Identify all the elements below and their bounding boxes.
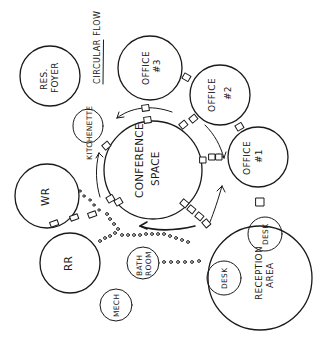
- arrow-right-upper: [205, 125, 224, 158]
- arrowhead-left-icon: [96, 153, 103, 158]
- circular-flow-label: CIRCULAR FLOW: [93, 10, 102, 84]
- room-rr: RR: [40, 233, 100, 293]
- arrowhead-bottom-icon: [140, 222, 147, 229]
- room-office-1: OFFICE #1: [228, 127, 288, 187]
- flow-arrows: [96, 108, 226, 230]
- circular-flow-annotation: CIRCULAR FLOW: [93, 10, 104, 84]
- desk-b-label: DESK: [220, 267, 229, 289]
- room-res-foyer: RES. FOYER: [20, 46, 80, 106]
- bubble-diagram: CIRCULAR FLOW RES. FOYER OFFICE #3 OFFIC…: [0, 0, 320, 338]
- office-3-label-1: OFFICE: [141, 51, 151, 85]
- mech-label: MECH: [112, 294, 121, 317]
- office-1-label-2: #1: [254, 149, 264, 163]
- kitchenette-label: KITCHENETTE: [85, 106, 94, 160]
- bathroom-label-2: ROOM: [144, 251, 153, 276]
- office-1-label-1: OFFICE: [242, 141, 252, 175]
- office-2-bubble: [190, 65, 250, 125]
- room-bathroom: BATH ROOM: [127, 247, 159, 279]
- arrow-left: [96, 153, 100, 197]
- wr-label: WR: [39, 188, 51, 206]
- reception-label-1: RECEPTION: [254, 246, 264, 300]
- office-2-label-2: #2: [223, 86, 233, 100]
- room-office-2: OFFICE #2: [190, 65, 250, 125]
- room-wr: WR: [15, 164, 79, 228]
- arrow-bottom: [140, 226, 195, 230]
- office-3-label-2: #3: [152, 59, 162, 73]
- room-kitchenette: KITCHENETTE: [73, 106, 103, 160]
- arrow-right-lower: [210, 186, 222, 222]
- res-foyer-label-2: FOYER: [50, 62, 60, 93]
- desk-a-label: DESK: [261, 223, 270, 245]
- res-foyer-label-1: RES.: [39, 68, 49, 90]
- room-reception-area: RECEPTION AREA DESK DESK: [207, 217, 312, 330]
- conference-label-1: CONFERENCE: [133, 123, 145, 198]
- annotation-underline: [103, 40, 104, 84]
- reception-label-2: AREA: [265, 262, 275, 288]
- conference-label-2: SPACE: [149, 151, 161, 186]
- room-office-3: OFFICE #3: [118, 36, 182, 100]
- rr-label: RR: [62, 256, 74, 271]
- room-mech: MECH: [100, 289, 132, 321]
- bathroom-label-1: BATH: [135, 255, 144, 276]
- office-2-label-1: OFFICE: [207, 78, 217, 112]
